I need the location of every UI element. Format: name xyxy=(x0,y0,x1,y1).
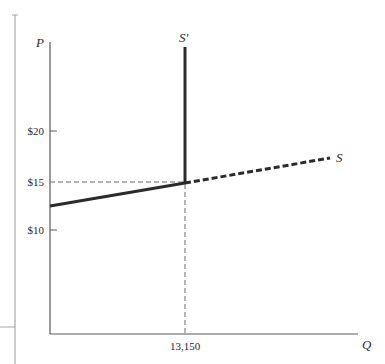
supply-curve-solid xyxy=(50,183,185,206)
supply-curve-dashed xyxy=(185,158,330,183)
y-tick-label-10: $10 xyxy=(28,224,45,236)
x-tick-label-13150: 13,150 xyxy=(170,340,201,352)
s-label: S xyxy=(336,150,343,165)
s-prime-label: S′ xyxy=(179,30,189,45)
y-tick-label-20: $20 xyxy=(28,125,45,137)
y-tick-label-15: $15 xyxy=(28,176,45,188)
x-axis-label: Q xyxy=(362,337,372,352)
y-axis-label: P xyxy=(35,35,44,50)
supply-chart: P Q S′ S $20 $15 $10 13,150 xyxy=(0,0,385,364)
